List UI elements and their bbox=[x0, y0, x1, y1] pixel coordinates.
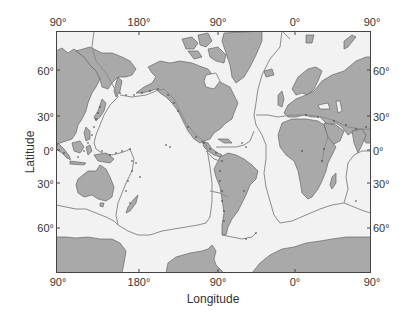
top-tick-90w: 90° bbox=[210, 17, 227, 28]
left-tick-60n: 60° bbox=[37, 66, 54, 77]
bottom-tick-180: 180° bbox=[128, 277, 151, 288]
land-antarctica-west bbox=[56, 237, 126, 273]
left-tick-60s: 60° bbox=[37, 223, 54, 234]
left-tick-30n: 30° bbox=[37, 112, 54, 123]
map-canvas bbox=[56, 31, 371, 273]
top-tick-90e: 90° bbox=[50, 17, 67, 28]
seismicity-world-map: 90° 180° 90° 0° 90° 90° 180° 90° 0° 90° … bbox=[0, 0, 407, 313]
right-tick-0: 0° bbox=[373, 146, 384, 157]
right-tick-60n: 60° bbox=[373, 66, 390, 77]
y-axis-title: Latitude bbox=[24, 131, 36, 174]
left-tick-30s: 30° bbox=[37, 179, 54, 190]
left-tick-0: 0° bbox=[43, 146, 54, 157]
x-axis-title: Longitude bbox=[187, 293, 240, 305]
land-tasmania bbox=[100, 203, 104, 207]
bottom-tick-0: 0° bbox=[290, 277, 301, 288]
right-tick-30s: 30° bbox=[373, 179, 390, 190]
top-tick-0: 0° bbox=[290, 17, 301, 28]
bottom-tick-90e-right: 90° bbox=[364, 277, 381, 288]
top-tick-90e-right: 90° bbox=[364, 17, 381, 28]
right-tick-60s: 60° bbox=[373, 223, 390, 234]
top-tick-180: 180° bbox=[128, 17, 151, 28]
bottom-tick-90w: 90° bbox=[210, 277, 227, 288]
bottom-tick-90e: 90° bbox=[50, 277, 67, 288]
right-tick-30n: 30° bbox=[373, 112, 390, 123]
